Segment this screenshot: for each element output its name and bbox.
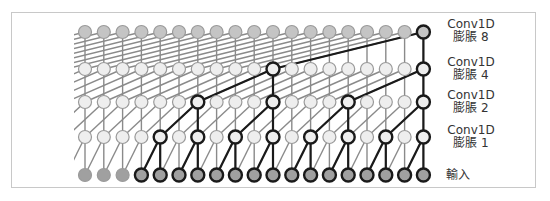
input-node	[116, 169, 129, 182]
conv-node-highlighted	[379, 131, 392, 144]
conv-node	[97, 96, 110, 109]
layer-label-line2: 膨脹 8	[446, 31, 496, 44]
input-node	[79, 169, 92, 182]
conv-node	[135, 63, 148, 76]
layer-label-line2: 膨脹 2	[446, 102, 496, 115]
input-node-highlighted	[191, 169, 204, 182]
conv-node	[97, 131, 110, 144]
conv-node	[323, 63, 336, 76]
conv-node	[304, 26, 317, 39]
conv-node	[191, 63, 204, 76]
conv-node	[398, 96, 411, 109]
conv-node	[323, 26, 336, 39]
input-node	[97, 169, 110, 182]
conv-node	[379, 26, 392, 39]
layer-label-line2: 膨脹 4	[446, 69, 496, 82]
conv-node	[173, 131, 186, 144]
conv-node	[173, 96, 186, 109]
conv-node-highlighted	[154, 131, 167, 144]
conv-node	[379, 96, 392, 109]
conv-node	[173, 26, 186, 39]
layer-label-dil1: Conv1D 膨脹 1	[446, 124, 496, 150]
conv-node	[285, 131, 298, 144]
conv-node	[248, 96, 261, 109]
conv-node-highlighted	[417, 131, 430, 144]
conv-node	[154, 96, 167, 109]
conv-node-highlighted	[191, 96, 204, 109]
conv-node	[285, 96, 298, 109]
conv-node	[79, 63, 92, 76]
conv-node	[97, 26, 110, 39]
conv-node-highlighted	[342, 131, 355, 144]
conv-node	[304, 96, 317, 109]
layer-label-input: 輸入	[438, 169, 478, 182]
conv-node	[398, 63, 411, 76]
connection-edge	[0, 32, 85, 69]
conv-node	[285, 26, 298, 39]
conv-node	[248, 131, 261, 144]
input-node-highlighted	[342, 169, 355, 182]
conv-node	[135, 26, 148, 39]
conv-node	[79, 26, 92, 39]
conv-node	[323, 96, 336, 109]
input-node-highlighted	[379, 169, 392, 182]
input-node-highlighted	[398, 169, 411, 182]
input-node-highlighted	[267, 169, 280, 182]
conv-node	[361, 26, 374, 39]
conv-node	[229, 63, 242, 76]
conv-node-highlighted	[267, 131, 280, 144]
conv-node	[116, 63, 129, 76]
conv-node	[323, 131, 336, 144]
input-node-highlighted	[135, 169, 148, 182]
conv-node	[191, 26, 204, 39]
conv-node-highlighted	[417, 26, 430, 39]
conv-node	[116, 96, 129, 109]
conv-node-highlighted	[267, 63, 280, 76]
conv-node	[210, 63, 223, 76]
connection-edge	[10, 69, 85, 102]
conv-node	[267, 26, 280, 39]
conv-node	[210, 96, 223, 109]
input-node-highlighted	[229, 169, 242, 182]
input-node-highlighted	[285, 169, 298, 182]
conv-node	[173, 63, 186, 76]
conv-node	[342, 63, 355, 76]
conv-node-highlighted	[342, 96, 355, 109]
conv-node-highlighted	[229, 131, 242, 144]
conv-node-highlighted	[417, 96, 430, 109]
input-node-highlighted	[248, 169, 261, 182]
conv-node	[361, 96, 374, 109]
conv-node	[398, 26, 411, 39]
conv-node	[210, 26, 223, 39]
input-node-highlighted	[173, 169, 186, 182]
conv-node	[398, 131, 411, 144]
conv-node	[361, 63, 374, 76]
input-node-highlighted	[210, 169, 223, 182]
conv-node-highlighted	[304, 131, 317, 144]
conv-node	[154, 63, 167, 76]
conv-node	[135, 96, 148, 109]
conv-node	[285, 63, 298, 76]
conv-node	[97, 63, 110, 76]
input-node-highlighted	[304, 169, 317, 182]
conv-node	[229, 96, 242, 109]
conv-node	[210, 131, 223, 144]
layer-label-dil4: Conv1D 膨脹 4	[446, 56, 496, 82]
conv-node	[304, 63, 317, 76]
conv-node	[116, 26, 129, 39]
connection-edge	[29, 69, 104, 102]
conv-node	[229, 26, 242, 39]
conv-node	[116, 131, 129, 144]
layer-label-dil8: Conv1D 膨脹 8	[446, 18, 496, 44]
conv-node	[248, 63, 261, 76]
layer-label-line2: 膨脹 1	[446, 137, 496, 150]
conv-node-highlighted	[191, 131, 204, 144]
conv-node	[79, 96, 92, 109]
input-node-highlighted	[417, 169, 430, 182]
conv-node	[79, 131, 92, 144]
input-node-highlighted	[154, 169, 167, 182]
input-node-highlighted	[361, 169, 374, 182]
layer-label-dil2: Conv1D 膨脹 2	[446, 89, 496, 115]
conv-node-highlighted	[417, 63, 430, 76]
layer-label-line1: 輸入	[438, 169, 478, 182]
